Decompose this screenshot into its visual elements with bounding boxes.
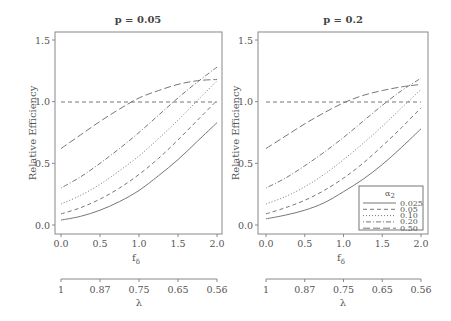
lambda-tick-label: 0.75: [128, 284, 149, 295]
y-tick-label: 0.0: [35, 220, 50, 231]
x-tick-label: 0.0: [258, 238, 273, 249]
x-axis: 0.00.51.01.52.0: [53, 234, 224, 249]
series-line-0.20: [61, 67, 217, 188]
x-axis-title: fδ: [337, 252, 345, 266]
y-tick-label: 1.5: [238, 35, 253, 46]
series-line-0.20: [266, 78, 421, 188]
series-line-0.05: [61, 100, 217, 213]
panel-title: p = 0.2: [323, 14, 363, 25]
lambda-tick-label: 0.87: [294, 284, 315, 295]
lambda-tick-label: 0.75: [333, 284, 354, 295]
x-tick-label: 1.5: [170, 238, 185, 249]
legend-entry-label: 0.50: [400, 224, 418, 233]
legend: α2 0.0250.050.100.200.50: [359, 186, 423, 233]
x-tick-label: 1.0: [131, 238, 146, 249]
lambda-tick-label: 0.56: [410, 284, 431, 295]
series-line-0.10: [61, 81, 217, 204]
lambda-axis-title: λ: [136, 297, 143, 308]
panel-p-02: p = 0.2 0.00.51.01.5 0.00.51.01.52.0 Rel…: [230, 14, 432, 308]
x-tick-label: 1.0: [336, 238, 351, 249]
y-axis-title: Relative Efficiency: [27, 85, 38, 180]
lambda-tick-label: 0.56: [206, 284, 227, 295]
lambda-tick-label: 1: [58, 284, 64, 295]
y-axis-title: Relative Efficiency: [230, 85, 241, 180]
x-tick-label: 0.5: [92, 238, 107, 249]
y-tick-label: 1.5: [35, 35, 50, 46]
lambda-tick-label: 1: [263, 284, 269, 295]
lambda-axis-title: λ: [340, 297, 347, 308]
panel-title: p = 0.05: [115, 14, 162, 25]
x-tick-label: 0.5: [297, 238, 312, 249]
x-axis: 0.00.51.01.52.0: [258, 234, 428, 249]
lambda-tick-label: 0.65: [372, 284, 393, 295]
y-tick-label: 0.0: [238, 220, 253, 231]
series-group: [61, 67, 217, 220]
relative-efficiency-chart: p = 0.05 0.00.51.01.5 0.00.51.01.52.0 Re…: [0, 0, 451, 321]
x-tick-label: 2.0: [413, 238, 428, 249]
series-line-0.50: [266, 84, 421, 148]
series-line-0.025: [61, 123, 217, 220]
x-tick-label: 1.5: [375, 238, 390, 249]
x-tick-label: 2.0: [209, 238, 224, 249]
x-tick-label: 0.0: [53, 238, 68, 249]
series-line-0.50: [61, 79, 217, 148]
lambda-tick-label: 0.65: [167, 284, 188, 295]
lambda-axis: 10.870.750.650.56 λ: [58, 279, 228, 308]
x-axis-title: fδ: [132, 252, 140, 266]
lambda-tick-label: 0.87: [89, 284, 110, 295]
lambda-axis: 10.870.750.650.56 λ: [263, 279, 432, 308]
panel-p-005: p = 0.05 0.00.51.01.5 0.00.51.01.52.0 Re…: [27, 14, 228, 308]
